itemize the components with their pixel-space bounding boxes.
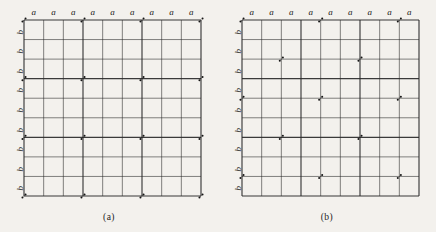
dimension-label-a: a: [407, 8, 412, 17]
dimension-label-b: b: [234, 128, 243, 133]
dimension-label-b: b: [234, 88, 243, 93]
dimension-label-a: a: [32, 8, 37, 17]
dimension-label-a: a: [387, 8, 392, 17]
caption-a: (a): [0, 212, 218, 222]
dimension-label-b: b: [234, 167, 243, 172]
dimension-label-b: b: [234, 108, 243, 113]
dimension-label-b: b: [16, 147, 25, 152]
dimension-label-a: a: [328, 8, 333, 17]
dimension-label-b: b: [16, 167, 25, 172]
dimension-label-a: a: [289, 8, 294, 17]
caption-b: (b): [218, 212, 436, 222]
dimension-label-b: b: [16, 88, 25, 93]
dimension-label-b: b: [16, 186, 25, 191]
dimension-label-a: a: [71, 8, 76, 17]
grid-b: [218, 0, 436, 232]
dimension-label-b: b: [234, 186, 243, 191]
dimension-label-b: b: [16, 49, 25, 54]
dimension-label-a: a: [368, 8, 373, 17]
dimension-label-a: a: [250, 8, 255, 17]
dimension-label-b: b: [234, 49, 243, 54]
dimension-label-b: b: [16, 69, 25, 74]
dimension-label-b: b: [234, 30, 243, 35]
dimension-label-a: a: [110, 8, 115, 17]
dimension-label-a: a: [189, 8, 194, 17]
panel-a: aaaaaaaaabbbbbbbbb (a): [0, 0, 218, 232]
dimension-label-a: a: [130, 8, 135, 17]
dimension-label-b: b: [16, 30, 25, 35]
dimension-label-b: b: [234, 69, 243, 74]
figure-root: aaaaaaaaabbbbbbbbb (a) aaaaaaaaabbbbbbbb…: [0, 0, 436, 232]
dimension-label-a: a: [169, 8, 174, 17]
dimension-label-a: a: [348, 8, 353, 17]
dimension-label-b: b: [16, 128, 25, 133]
dimension-label-a: a: [91, 8, 96, 17]
grid-a: [0, 0, 218, 232]
dimension-label-a: a: [309, 8, 314, 17]
dimension-label-a: a: [269, 8, 274, 17]
panel-b: aaaaaaaaabbbbbbbbb (b): [218, 0, 436, 232]
dimension-label-b: b: [16, 108, 25, 113]
dimension-label-b: b: [234, 147, 243, 152]
dimension-label-a: a: [150, 8, 155, 17]
dimension-label-a: a: [51, 8, 56, 17]
